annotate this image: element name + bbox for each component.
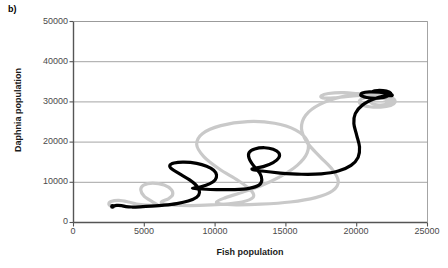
x-tick-label: 10000 <box>185 226 245 237</box>
tick-marks-group <box>70 22 428 227</box>
y-tick-30000: 30000 <box>16 97 68 106</box>
x-axis-title: Fish population <box>73 247 427 257</box>
x-tick-label: 5000 <box>114 226 174 237</box>
y-tick-0: 0 <box>16 217 68 226</box>
x-tick-label: 15000 <box>255 226 315 237</box>
y-tick-label: 40000 <box>22 57 68 66</box>
y-tick-label: 30000 <box>22 97 68 106</box>
data-series-group <box>109 90 395 208</box>
y-tick-label: 0 <box>22 217 68 226</box>
y-tick-label: 10000 <box>22 177 68 186</box>
y-axis-title: Daphnia population <box>13 30 23 190</box>
x-tick-label: 20000 <box>326 226 386 237</box>
panel-label: b) <box>8 4 17 14</box>
y-tick-50000: 50000 <box>16 17 68 26</box>
x-tick-15000: 15000 <box>255 226 315 237</box>
y-tick-20000: 20000 <box>16 137 68 146</box>
y-tick-10000: 10000 <box>16 177 68 186</box>
x-tick-5000: 5000 <box>114 226 174 237</box>
y-tick-40000: 40000 <box>16 57 68 66</box>
chart-figure: b) Daphnia population Fish population 50… <box>0 0 448 268</box>
y-tick-label: 20000 <box>22 137 68 146</box>
y-tick-label: 50000 <box>22 17 68 26</box>
x-tick-label: 0 <box>43 226 103 237</box>
x-tick-20000: 20000 <box>326 226 386 237</box>
x-tick-label: 25000 <box>397 226 448 237</box>
series-start-marker-2 <box>110 204 115 209</box>
x-tick-0: 0 <box>43 226 103 237</box>
x-tick-25000: 25000 <box>397 226 448 237</box>
x-tick-10000: 10000 <box>185 226 245 237</box>
